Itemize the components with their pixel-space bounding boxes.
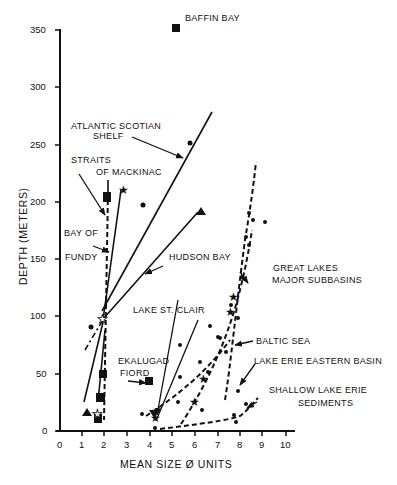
- y-tick: 200: [30, 196, 46, 207]
- x-tick: 10: [280, 439, 291, 450]
- label-straits-1: STRAITS: [71, 155, 111, 166]
- x-tick: 9: [259, 439, 264, 450]
- chart-plot: ★ ★ ★ ★ ★ ★ ★ ★: [0, 0, 397, 485]
- label-baltic: BALTIC SEA: [256, 336, 310, 347]
- star-markers: ★ ★ ★ ★ ★ ★ ★ ★: [92, 183, 239, 425]
- svg-text:★: ★: [198, 372, 209, 386]
- y-tick: 250: [30, 139, 46, 150]
- x-tick: 7: [215, 439, 220, 450]
- svg-text:★: ★: [189, 395, 200, 409]
- x-tick: 3: [124, 439, 129, 450]
- shallow-erie-curve: [160, 398, 258, 429]
- svg-text:★: ★: [150, 411, 161, 425]
- label-stclair: LAKE ST. CLAIR: [133, 305, 205, 316]
- label-erie-east: LAKE ERIE EASTERN BASIN: [254, 356, 382, 367]
- x-tick: 6: [192, 439, 197, 450]
- y-axis-label: DEPTH (METERS): [17, 187, 29, 285]
- svg-text:★: ★: [92, 407, 103, 421]
- label-ekalugad-2: FIORD: [120, 368, 150, 379]
- label-bay-2: FUNDY: [65, 252, 98, 263]
- x-tick: 2: [101, 439, 106, 450]
- y-tick: 350: [30, 24, 46, 35]
- label-great-1: GREAT LAKES: [273, 263, 338, 274]
- x-tick: 1: [79, 439, 84, 450]
- x-tick: 5: [169, 439, 174, 450]
- x-tick: 4: [147, 439, 152, 450]
- label-straits-2: OF MACKINAC: [96, 167, 162, 178]
- svg-text:★: ★: [97, 312, 108, 326]
- label-ekalugad-1: EKALUGAD: [118, 356, 169, 367]
- label-hudson: HUDSON BAY: [169, 252, 231, 263]
- x-tick: 8: [237, 439, 242, 450]
- x-tick: 0: [57, 439, 62, 450]
- label-baffin-bay: BAFFIN BAY: [185, 13, 240, 24]
- y-tick: 150: [30, 253, 46, 264]
- label-shallow-2: SEDIMENTS: [298, 398, 353, 409]
- svg-text:★: ★: [228, 290, 239, 304]
- y-tick: 50: [36, 368, 47, 379]
- svg-text:★: ★: [118, 183, 129, 197]
- label-bay-1: BAY OF: [64, 228, 98, 239]
- great-lakes-curve: [225, 162, 256, 400]
- x-axis-label: MEAN SIZE Ø UNITS: [120, 458, 232, 470]
- hudson-line: [104, 212, 198, 318]
- y-tick: 0: [42, 425, 47, 436]
- label-atlantic-2: SHELF: [93, 131, 124, 142]
- y-tick: 100: [30, 310, 46, 321]
- svg-text:★: ★: [225, 305, 236, 319]
- y-tick: 300: [30, 81, 46, 92]
- label-shallow-1: SHALLOW LAKE ERIE: [269, 385, 367, 396]
- label-great-2: MAJOR SUBBASINS: [272, 275, 362, 286]
